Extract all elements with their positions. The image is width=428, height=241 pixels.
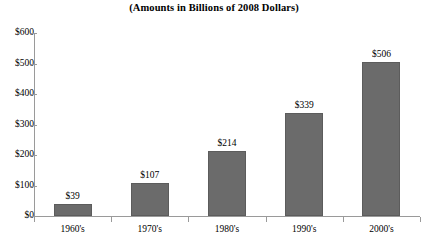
bar-value-label: $214 — [217, 138, 236, 148]
x-axis-category-label: 1980's — [188, 224, 265, 234]
x-axis-tick-mark — [188, 217, 189, 222]
x-axis-tick-mark — [343, 217, 344, 222]
y-axis-tick-label: $300 — [0, 119, 34, 129]
bar-value-label: $506 — [372, 49, 391, 59]
x-axis-tick-mark — [111, 217, 112, 222]
y-axis-tick-label: $500 — [0, 58, 34, 68]
bar-group: $339 — [266, 33, 343, 216]
x-axis-tick-mark — [420, 217, 421, 222]
chart-title: (Amounts in Billions of 2008 Dollars) — [0, 2, 428, 13]
x-axis-line — [34, 216, 420, 217]
bar — [285, 113, 323, 216]
x-axis-category-label: 1990's — [266, 224, 343, 234]
y-axis-tick-label: $100 — [0, 180, 34, 190]
x-axis-category-label: 2000's — [343, 224, 420, 234]
x-axis-tick-mark — [34, 217, 35, 222]
bar-group: $506 — [343, 33, 420, 216]
bar-group: $107 — [111, 33, 188, 216]
bar-group: $39 — [34, 33, 111, 216]
bar — [362, 62, 400, 216]
x-axis-tick-mark — [266, 217, 267, 222]
bar-chart: (Amounts in Billions of 2008 Dollars) $0… — [0, 0, 428, 241]
y-axis-tick-label: $0 — [0, 210, 34, 220]
x-axis-category-label: 1960's — [34, 224, 111, 234]
bar — [131, 183, 169, 216]
bar-group: $214 — [188, 33, 265, 216]
bar-value-label: $107 — [140, 170, 159, 180]
y-axis-tick-label: $200 — [0, 149, 34, 159]
y-axis-tick-label: $600 — [0, 27, 34, 37]
bar — [208, 151, 246, 216]
y-axis-tick-label: $400 — [0, 88, 34, 98]
x-axis-category-label: 1970's — [111, 224, 188, 234]
bar-value-label: $39 — [65, 191, 79, 201]
bar-value-label: $339 — [295, 100, 314, 110]
bar — [54, 204, 92, 216]
